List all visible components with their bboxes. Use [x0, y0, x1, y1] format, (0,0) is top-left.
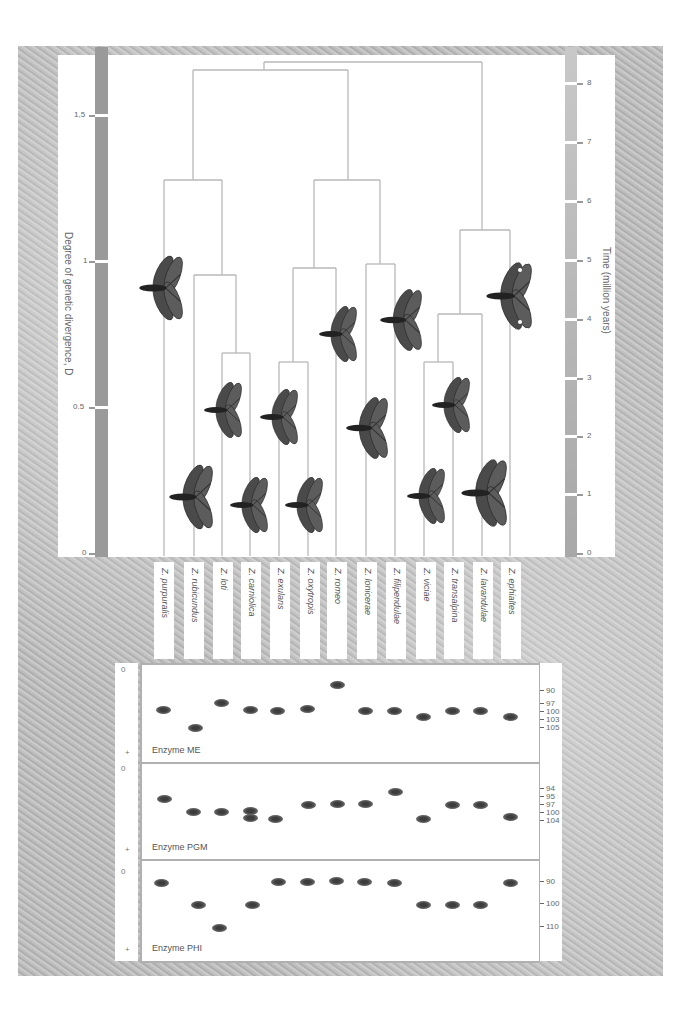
- gel-band: [154, 879, 169, 887]
- gel-band: [300, 878, 315, 886]
- species-label: Z. romeo: [327, 562, 347, 659]
- gel-band: [214, 808, 229, 816]
- species-label: Z. lonicerae: [357, 562, 377, 659]
- gel-band: [445, 801, 460, 809]
- pole-top: 0: [121, 665, 125, 674]
- gel-band: [473, 801, 488, 809]
- mw-marker: 110: [540, 922, 559, 931]
- gel-band: [503, 713, 518, 721]
- gel-band: [503, 879, 518, 887]
- gel-band: [473, 707, 488, 715]
- pole-bottom: +: [125, 845, 130, 854]
- gel-band: [358, 707, 373, 715]
- gel-band: [416, 815, 431, 823]
- species-label: Z. ephialtes: [501, 562, 521, 659]
- gel-band: [330, 800, 345, 808]
- species-label: Z. lavandulae: [473, 562, 493, 659]
- gel-enzyme-phi: Enzyme PHI: [140, 859, 539, 963]
- moth-illustration-carniolica: [230, 475, 271, 535]
- gel-band: [473, 901, 488, 909]
- gel-band: [330, 681, 345, 689]
- gel-band: [301, 801, 316, 809]
- moth-illustration-lavandulae: [461, 457, 510, 529]
- species-label: Z. oxytropis: [300, 562, 320, 659]
- gel-band: [188, 724, 203, 732]
- gel-band: [445, 707, 460, 715]
- gel-band: [387, 879, 402, 887]
- species-label: Z. rubicundus: [184, 562, 204, 659]
- gel-band: [388, 788, 403, 796]
- gel-band: [445, 901, 460, 909]
- gel-label: Enzyme ME: [152, 745, 201, 755]
- moth-illustration-oxytropis: [285, 475, 326, 535]
- gel-band: [416, 901, 431, 909]
- gel-band: [186, 808, 201, 816]
- gel-band: [270, 707, 285, 715]
- mw-marker: 104: [540, 816, 559, 825]
- gel-band: [157, 795, 172, 803]
- gel-band: [357, 878, 372, 886]
- gel-band: [268, 815, 283, 823]
- gel-band: [358, 800, 373, 808]
- species-label: Z. filipendulae: [386, 562, 406, 659]
- gel-band: [503, 813, 518, 821]
- mw-marker: 100: [540, 899, 559, 908]
- species-label: Z. purpuralis: [154, 562, 174, 659]
- gel-band: [329, 877, 344, 885]
- moth-illustration-loti: [204, 380, 245, 440]
- mw-marker: 90: [540, 877, 555, 886]
- moth-illustration-lonicerae: [346, 395, 391, 461]
- gel-label: Enzyme PHI: [152, 943, 202, 953]
- moth-illustration-purpuralis: [139, 253, 186, 322]
- species-label: Z. carniolica: [241, 562, 261, 659]
- gel-band: [387, 707, 402, 715]
- moth-illustration-romeo: [319, 304, 360, 364]
- gel-band: [191, 901, 206, 909]
- species-label: Z. exulans: [270, 562, 290, 659]
- moth-illustration-ephialtes: [486, 260, 535, 332]
- gel-band: [156, 706, 171, 714]
- gel-band: [212, 924, 227, 932]
- species-label: Z. viciae: [416, 562, 436, 659]
- moth-illustration-viciae: [407, 466, 448, 526]
- pole-bottom: +: [125, 945, 130, 954]
- moth-illustration-filipendulae: [380, 287, 425, 353]
- gel-band: [300, 705, 315, 713]
- pole-bottom: +: [125, 748, 130, 757]
- moth-illustration-transalpina: [432, 375, 473, 435]
- mw-marker: 90: [540, 686, 555, 695]
- gel-band: [243, 814, 258, 822]
- species-label: Z. transalpina: [444, 562, 464, 659]
- pole-top: 0: [121, 764, 125, 773]
- gel-band: [245, 901, 260, 909]
- gel-label: Enzyme PGM: [152, 842, 208, 852]
- gel-pole-column: [115, 663, 138, 961]
- species-label: Z. loti: [213, 562, 233, 659]
- moth-illustration-rubicundus: [169, 462, 216, 531]
- gel-band: [416, 713, 431, 721]
- pole-top: 0: [121, 867, 125, 876]
- gel-band: [243, 706, 258, 714]
- mw-marker: 105: [540, 723, 559, 732]
- gel-band: [214, 699, 229, 707]
- gel-band: [271, 878, 286, 886]
- moth-illustration-exulans: [260, 387, 301, 447]
